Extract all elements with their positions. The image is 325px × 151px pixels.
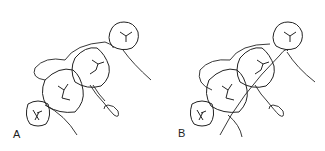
panel-b: B: [160, 0, 325, 151]
panel-label-a: A: [13, 128, 20, 140]
teeth-wire-illustration-a: [0, 0, 165, 151]
panel-a: A: [0, 0, 165, 151]
panel-label-b: B: [178, 127, 185, 139]
